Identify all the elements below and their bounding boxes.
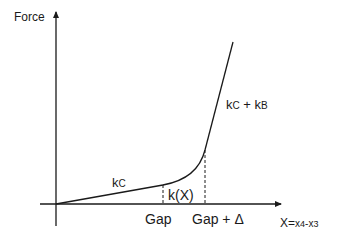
kc-segment <box>56 185 163 204</box>
kc-label: kC <box>112 176 126 189</box>
gap-delta-label: Gap + Δ <box>192 212 244 226</box>
x-axis-label: X=x4-x3 <box>280 217 318 229</box>
kx-curve <box>163 150 205 185</box>
gap-label: Gap <box>145 212 171 226</box>
force-displacement-plot <box>0 0 339 242</box>
y-axis-label: Force <box>14 11 45 23</box>
kc-kb-label: kC + kB <box>226 98 268 111</box>
kc-kb-segment <box>205 42 233 150</box>
kx-label: k(X) <box>168 188 194 202</box>
